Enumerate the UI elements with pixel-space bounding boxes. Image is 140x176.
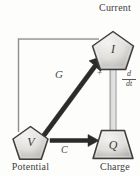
node-current-shape[interactable]	[93, 32, 134, 70]
derivative-denominator: dt	[122, 80, 136, 88]
summing-plus-icon: +	[97, 67, 102, 77]
node-caption-current: Current	[90, 2, 140, 13]
edge-conductance-arrow	[41, 56, 105, 139]
diagram-graphics	[0, 0, 140, 176]
edge-capacitance-arrow	[50, 135, 99, 147]
diagram-canvas: I V Q Current Potential Charge G C d dt …	[0, 0, 140, 176]
edge-label-conductance: G	[55, 68, 63, 80]
node-charge-shape[interactable]	[93, 131, 133, 159]
edge-label-capacitance: C	[61, 144, 68, 155]
derivative-numerator: d	[122, 70, 136, 78]
edge-label-derivative: d dt	[122, 70, 136, 89]
node-caption-charge: Charge	[90, 161, 140, 172]
node-caption-potential: Potential	[0, 161, 61, 172]
